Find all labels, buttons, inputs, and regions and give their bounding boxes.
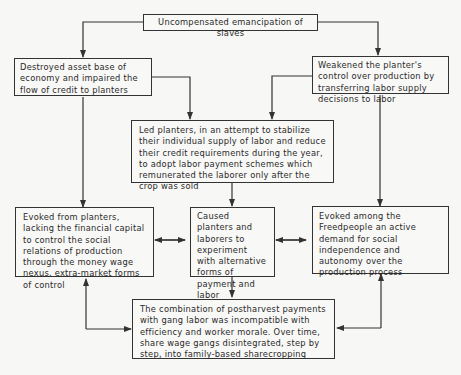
- node-left-mid: Evoked from planters, lacking the financ…: [15, 207, 154, 277]
- node-left-mid-text: Evoked from planters, lacking the financ…: [23, 212, 144, 290]
- node-right-mid-text: Evoked among the Freedpeople an active d…: [319, 211, 416, 277]
- node-root: Uncompensated emancipation of slaves: [143, 14, 318, 31]
- node-left-top: Destroyed asset base of economy and impa…: [14, 58, 152, 96]
- node-middle-text: Led planters, in an attempt to stabilize…: [139, 125, 326, 191]
- node-bottom-text: The combination of postharvest payments …: [140, 304, 326, 359]
- node-middle: Led planters, in an attempt to stabilize…: [131, 120, 334, 183]
- node-right-top: Weakened the planter's control over prod…: [312, 56, 449, 94]
- node-bottom: The combination of postharvest payments …: [132, 299, 335, 359]
- node-right-mid: Evoked among the Freedpeople an active d…: [312, 206, 449, 274]
- node-center-mid: Caused planters and laborers to experime…: [190, 207, 275, 277]
- node-left-top-text: Destroyed asset base of economy and impa…: [20, 62, 138, 95]
